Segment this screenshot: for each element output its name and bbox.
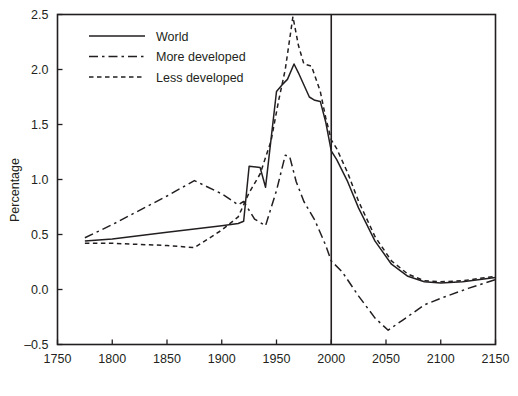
y-tick-label: 2.0 — [31, 63, 48, 77]
y-tick-label: –0.5 — [24, 338, 48, 352]
x-tick-label: 2100 — [427, 352, 455, 366]
data-series-group — [85, 17, 496, 331]
x-tick-label: 1950 — [263, 352, 291, 366]
x-tick-label: 1850 — [153, 352, 181, 366]
y-tick-label: 0.0 — [31, 283, 48, 297]
x-tick-label: 1800 — [98, 352, 126, 366]
series-line-world — [85, 64, 496, 283]
series-line-more-developed — [85, 155, 496, 330]
x-tick-label: 1900 — [208, 352, 236, 366]
y-tick-label: 0.5 — [31, 228, 48, 242]
x-tick-label: 1750 — [44, 352, 72, 366]
x-tick-label: 2050 — [372, 352, 400, 366]
y-tick-label: 2.5 — [31, 8, 48, 22]
x-axis-tick-labels: 175018001850190019502000205021002150 — [44, 352, 510, 366]
legend-label-more-developed: More developed — [156, 50, 246, 64]
x-tick-label: 2150 — [482, 352, 510, 366]
y-tick-label: 1.5 — [31, 118, 48, 132]
legend-label-world: World — [156, 30, 188, 44]
legend-label-less-developed: Less developed — [156, 71, 244, 85]
chart-legend: WorldMore developedLess developed — [89, 30, 246, 85]
series-line-less-developed — [85, 17, 496, 282]
plot-frame — [58, 15, 496, 345]
y-axis-title: Percentage — [8, 158, 22, 222]
figure-container: –0.50.00.51.01.52.02.5 17501800185019001… — [0, 0, 518, 396]
x-tick-label: 2000 — [317, 352, 345, 366]
y-tick-label: 1.0 — [31, 173, 48, 187]
population-growth-rate-line-chart: –0.50.00.51.01.52.02.5 17501800185019001… — [0, 0, 518, 396]
y-axis-tick-labels: –0.50.00.51.01.52.02.5 — [24, 8, 48, 352]
